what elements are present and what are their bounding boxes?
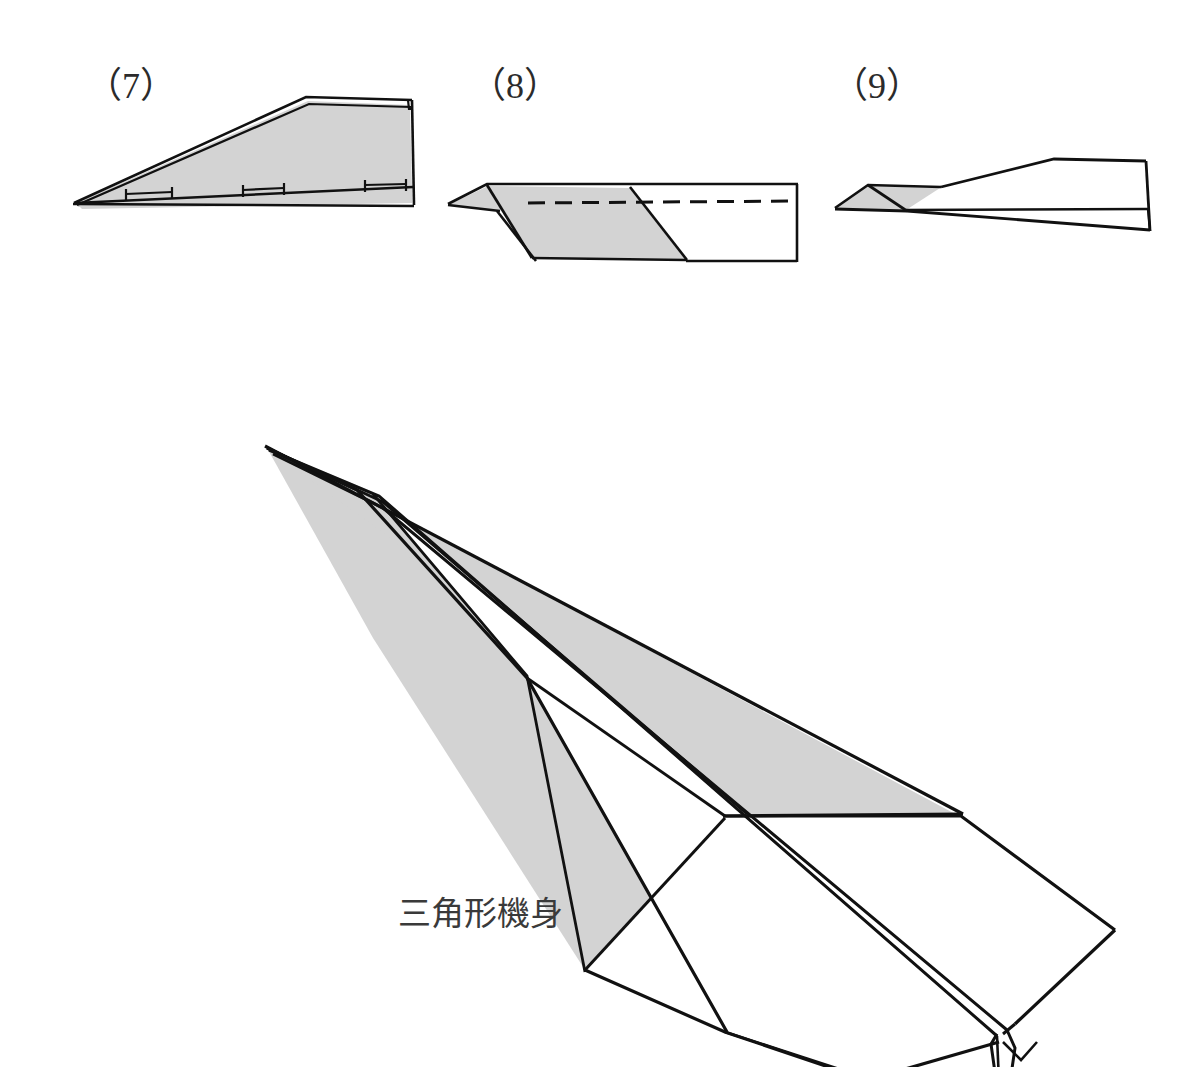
step9-lower-edge [835, 209, 1150, 230]
figure-main-perspective [255, 430, 1145, 1050]
figure-step-9 [828, 140, 1196, 255]
main-far-wing-rear-edge [1015, 930, 1115, 1024]
step-8-svg [440, 170, 810, 285]
step7-right-edge [412, 100, 414, 205]
main-tail-fin-crease [997, 1036, 1001, 1067]
step-label-8: （8） [470, 68, 560, 104]
main-tail-fin-outline [991, 1030, 1015, 1067]
step-label-9: （9） [832, 68, 922, 104]
main-figure-caption: 三角形機身 [398, 897, 563, 930]
figure-step-8 [440, 170, 810, 285]
page-canvas: （7） （8） （9） 三角形機身 [0, 0, 1196, 1067]
step9-body-top-edge [941, 159, 1146, 187]
step9-wing-fold-line [906, 209, 1148, 210]
main-tail-fin-notch [1003, 1042, 1037, 1060]
main-figure-svg [255, 430, 1145, 1050]
step-9-svg [828, 140, 1196, 255]
step-label-7: （7） [86, 68, 176, 104]
